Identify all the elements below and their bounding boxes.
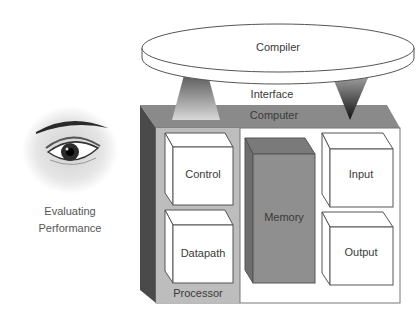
computer-organization-diagram: Compiler Interface Computer Control Data… [0,0,420,321]
memory-label: Memory [264,211,304,223]
computer-side-face [140,105,156,303]
datapath-label: Datapath [181,247,226,259]
processor-label: Processor [173,287,223,299]
compiler-label: Compiler [256,41,300,53]
compiler-disc [142,24,414,84]
evaluating-performance-caption: Evaluating Performance [20,203,120,237]
output-label: Output [344,246,377,258]
control-label: Control [185,168,220,180]
interface-label: Interface [251,88,294,100]
input-label: Input [349,168,373,180]
computer-label: Computer [250,109,299,121]
caption-line-1: Evaluating [20,203,120,220]
caption-line-2: Performance [20,220,120,237]
eye-illustration [22,106,118,194]
